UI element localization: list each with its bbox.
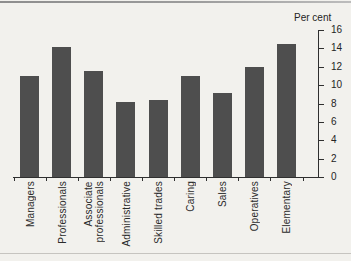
bar bbox=[245, 67, 264, 177]
category-label: Caring bbox=[185, 181, 196, 216]
category-label-text: Operatives bbox=[249, 181, 260, 231]
figure: Per cent 0246810121416ManagersProfession… bbox=[0, 0, 351, 261]
x-tick bbox=[303, 177, 304, 181]
category-label: Operatives bbox=[249, 181, 260, 235]
category-label: Professionals bbox=[56, 181, 67, 248]
y-tick bbox=[318, 140, 324, 141]
y-tick bbox=[318, 85, 324, 86]
y-tick-label: 14 bbox=[331, 42, 342, 54]
y-tick bbox=[318, 159, 324, 160]
y-tick bbox=[318, 30, 324, 31]
category-label-text: Elementary bbox=[281, 181, 292, 234]
category-label: Sales bbox=[217, 181, 228, 211]
x-axis-line bbox=[13, 177, 319, 178]
x-tick bbox=[142, 177, 143, 181]
y-tick bbox=[318, 177, 324, 178]
y-tick-label: 6 bbox=[331, 116, 337, 128]
x-tick bbox=[206, 177, 207, 181]
category-label-text: Skilled trades bbox=[153, 181, 164, 244]
x-tick bbox=[174, 177, 175, 181]
plot-area: 0246810121416ManagersProfessionalsAssoci… bbox=[0, 0, 351, 261]
bar bbox=[181, 76, 200, 177]
y-tick bbox=[318, 67, 324, 68]
category-label: Managers bbox=[24, 181, 35, 231]
bottom-rule bbox=[0, 253, 351, 254]
x-tick bbox=[46, 177, 47, 181]
x-tick bbox=[270, 177, 271, 181]
y-tick bbox=[318, 48, 324, 49]
y-tick-label: 0 bbox=[331, 171, 337, 183]
bar bbox=[213, 93, 232, 177]
y-tick-label: 8 bbox=[331, 98, 337, 110]
category-label-text: Caring bbox=[185, 181, 196, 212]
bar bbox=[116, 102, 135, 177]
y-tick bbox=[318, 122, 324, 123]
bar bbox=[84, 71, 103, 177]
category-label-text: Associate professionals bbox=[83, 181, 105, 243]
category-label: Associate professionals bbox=[83, 181, 105, 247]
y-tick-label: 12 bbox=[331, 61, 342, 73]
bar bbox=[277, 44, 296, 177]
x-tick bbox=[238, 177, 239, 181]
category-label-text: Administrative bbox=[120, 181, 131, 247]
x-tick bbox=[110, 177, 111, 181]
bar bbox=[20, 76, 39, 177]
y-tick-label: 2 bbox=[331, 153, 337, 165]
bar bbox=[149, 100, 168, 177]
category-label-text: Sales bbox=[217, 181, 228, 207]
x-tick bbox=[78, 177, 79, 181]
category-label-text: Managers bbox=[24, 181, 35, 227]
category-label: Elementary bbox=[281, 181, 292, 238]
y-tick-label: 16 bbox=[331, 24, 342, 36]
category-label: Administrative bbox=[120, 181, 131, 251]
category-label-text: Professionals bbox=[56, 181, 67, 244]
y-tick-label: 10 bbox=[331, 79, 342, 91]
y-tick-label: 4 bbox=[331, 134, 337, 146]
x-tick bbox=[14, 177, 15, 181]
category-label: Skilled trades bbox=[153, 181, 164, 248]
y-tick bbox=[318, 104, 324, 105]
bar bbox=[52, 47, 71, 177]
